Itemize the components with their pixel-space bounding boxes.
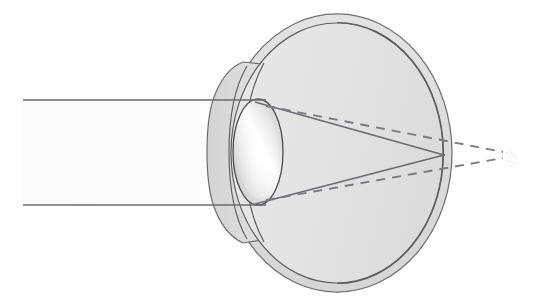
eyeball-group [207, 14, 452, 292]
scan-artifact [505, 150, 518, 167]
eye-refraction-diagram [0, 0, 560, 305]
focal-point [443, 154, 445, 156]
lens-group [233, 99, 283, 205]
eye-diagram-canvas [0, 0, 560, 305]
lens-highlight [238, 106, 278, 198]
